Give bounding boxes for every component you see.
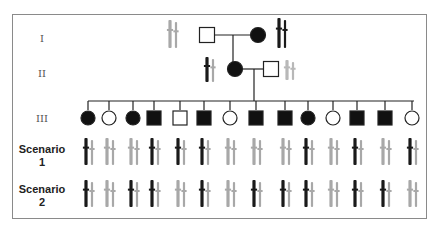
centromere-mark: [328, 189, 334, 191]
centromere-mark: [199, 147, 205, 149]
scenario2-chromosomes-2-b: [112, 182, 114, 207]
centromere-mark: [276, 28, 282, 30]
centromere-mark: [282, 29, 287, 31]
scenario2-chromosomes-12-a: [353, 180, 356, 207]
centromere-mark: [181, 190, 186, 192]
scenario2-chromosomes-6-a: [200, 180, 203, 207]
centromere-mark: [231, 190, 236, 192]
centromere-mark: [110, 148, 115, 150]
centromere-mark: [380, 189, 386, 191]
centromere-mark: [89, 190, 94, 192]
centromere-mark: [352, 147, 358, 149]
centromere-mark: [303, 189, 309, 191]
affected-female-symbol: [81, 111, 95, 125]
scenario1-chromosomes-8-a: [252, 138, 255, 165]
gen1-male-chromosomes-a: [168, 20, 171, 48]
centromere-mark: [413, 190, 418, 192]
scenario2-chromosomes-13-a: [381, 180, 384, 207]
unaffected-male-symbol: [173, 111, 187, 125]
scenario1-chromosomes-7-a: [226, 138, 229, 165]
centromere-mark: [204, 65, 210, 67]
centromere-mark: [110, 190, 115, 192]
scenario1-chromosomes-14-a: [408, 138, 411, 165]
scenario1-chromosomes-11-b: [336, 140, 338, 165]
scenario2-chromosomes-4-b: [157, 182, 159, 207]
scenario1-chromosomes-9-b: [288, 140, 290, 165]
centromere-mark: [175, 189, 181, 191]
scenario2-chromosomes-11-b: [336, 182, 338, 207]
centromere-mark: [167, 29, 173, 31]
centromere-mark: [231, 148, 236, 150]
centromere-mark: [407, 147, 413, 149]
scenario1-chromosomes-2-a: [105, 138, 108, 165]
centromere-mark: [175, 147, 181, 149]
scenario2-chromosomes-13-b: [388, 182, 390, 207]
scenario2-chromosomes-3-a: [129, 180, 132, 207]
scenario2-chromosomes-5-b: [183, 182, 185, 207]
centromere-mark: [352, 189, 358, 191]
scenario2-chromosomes-6-b: [207, 182, 209, 207]
affected-male-symbol: [197, 111, 211, 125]
scenario1-chromosomes-1-b: [91, 140, 93, 165]
scenario1-chromosomes-10-b: [311, 140, 313, 165]
scenario1-chromosomes-12-a: [353, 138, 356, 165]
unaffected-female-symbol: [405, 111, 419, 125]
scenario1-chromosomes-2-b: [112, 140, 114, 165]
scenario2-chromosomes-10-b: [311, 182, 313, 207]
centromere-mark: [251, 147, 257, 149]
scenario1-chromosomes-1-a: [84, 138, 87, 165]
unaffected-female-symbol: [326, 111, 340, 125]
centromere-mark: [155, 148, 160, 150]
centromere-mark: [280, 147, 286, 149]
affected-female-symbol: [228, 62, 243, 77]
centromere-mark: [104, 147, 110, 149]
affected-male-symbol: [350, 111, 364, 125]
scenario1-chromosomes-8-b: [259, 140, 261, 165]
centromere-mark: [205, 148, 210, 150]
centromere-mark: [210, 66, 215, 68]
scenario2-chromosomes-1-a: [84, 180, 87, 207]
scenario2-chromosomes-3-b: [136, 182, 138, 207]
scenario2-chromosomes-10-a: [304, 180, 307, 207]
centromere-mark: [149, 189, 155, 191]
centromere-mark: [413, 148, 418, 150]
centromere-mark: [334, 190, 339, 192]
scenario1-chromosomes-6-b: [207, 140, 209, 165]
scenario1-chromosomes-5-a: [176, 138, 179, 165]
centromere-mark: [280, 189, 286, 191]
scenario2-chromosomes-9-b: [288, 182, 290, 207]
centromere-mark: [89, 148, 94, 150]
affected-male-symbol: [278, 111, 292, 125]
gen2-female-chromosomes-b: [212, 59, 214, 82]
centromere-mark: [181, 148, 186, 150]
centromere-mark: [328, 147, 334, 149]
centromere-mark: [205, 190, 210, 192]
centromere-mark: [334, 148, 339, 150]
centromere-mark: [358, 148, 363, 150]
affected-female-symbol: [301, 111, 315, 125]
gen2-male-chromosomes-b: [292, 62, 294, 80]
scenario2-chromosomes-14-a: [408, 180, 411, 207]
scenario1-chromosomes-11-a: [329, 138, 332, 165]
unaffected-female-symbol: [223, 111, 237, 125]
centromere-mark: [286, 190, 291, 192]
centromere-mark: [251, 189, 257, 191]
scenario1-chromosomes-4-a: [150, 138, 153, 165]
centromere-mark: [286, 148, 291, 150]
centromere-mark: [199, 189, 205, 191]
scenario1-chromosomes-6-a: [200, 138, 203, 165]
centromere-mark: [309, 148, 314, 150]
scenario1-chromosomes-13-b: [388, 140, 390, 165]
centromere-mark: [128, 147, 134, 149]
scenario2-chromosomes-14-b: [415, 182, 417, 207]
scenario2-chromosomes-12-b: [360, 182, 362, 207]
scenario1-chromosomes-14-b: [415, 140, 417, 165]
scenario2-chromosomes-8-b: [259, 182, 261, 207]
scenario2-chromosomes-9-a: [281, 180, 284, 207]
unaffected-male-symbol: [200, 28, 215, 43]
scenario1-chromosomes-3-b: [136, 140, 138, 165]
centromere-mark: [303, 147, 309, 149]
affected-female-symbol: [251, 28, 266, 43]
centromere-mark: [83, 189, 89, 191]
centromere-mark: [173, 30, 178, 32]
